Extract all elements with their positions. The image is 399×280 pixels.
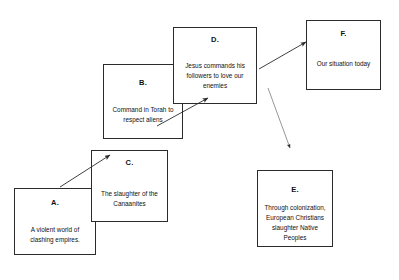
- node-e[interactable]: E. Through colonization, European Christ…: [257, 170, 333, 247]
- diagram-canvas: A. A violent world of clashing empires. …: [0, 0, 399, 280]
- node-f-text: Our situation today: [307, 59, 380, 69]
- node-f[interactable]: F. Our situation today: [306, 20, 381, 90]
- node-d-text: Jesus commands his followers to love our…: [174, 61, 256, 91]
- node-b[interactable]: B. Command in Torah to respect aliens: [103, 64, 183, 139]
- arrow-d-to-f: [259, 42, 306, 69]
- node-c-label: C.: [92, 158, 167, 167]
- node-a[interactable]: A. A violent world of clashing empires.: [14, 188, 96, 255]
- node-e-label: E.: [258, 185, 332, 194]
- node-f-label: F.: [307, 29, 380, 38]
- node-d-label: D.: [174, 35, 256, 44]
- node-a-text: A violent world of clashing empires.: [15, 225, 95, 245]
- node-b-label: B.: [104, 78, 182, 87]
- node-c[interactable]: C. The slaughter of the Canaanites: [91, 150, 168, 222]
- node-b-text: Command in Torah to respect aliens: [104, 105, 182, 125]
- node-d[interactable]: D. Jesus commands his followers to love …: [173, 27, 257, 104]
- node-c-text: The slaughter of the Canaanites: [92, 189, 167, 209]
- node-e-text: Through colonization, European Christian…: [258, 203, 332, 243]
- arrow-d-to-e: [268, 88, 290, 148]
- node-a-label: A.: [15, 198, 95, 207]
